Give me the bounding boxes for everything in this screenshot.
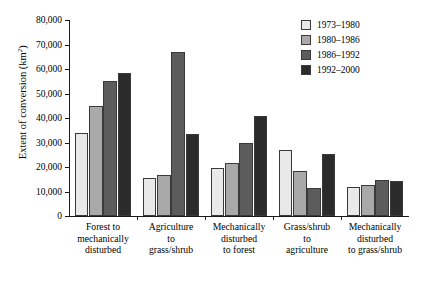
legend-label: 1980–1986 <box>317 35 360 45</box>
y-tick-label: 50,000 <box>36 89 62 99</box>
x-category-label: Mechanicallydisturbedto grass/shrub <box>335 221 415 256</box>
bar <box>361 185 374 216</box>
x-tick-mark <box>341 216 342 220</box>
y-tick-label: 30,000 <box>36 138 62 148</box>
bar <box>157 175 170 216</box>
bar <box>375 180 388 216</box>
x-tick-mark <box>273 216 274 220</box>
bar <box>171 52 184 216</box>
y-axis-title-suffix: ) <box>17 45 28 49</box>
legend-label: 1992–2000 <box>317 65 360 75</box>
legend-item[interactable]: 1992–2000 <box>301 62 419 77</box>
bar <box>293 171 306 216</box>
bar <box>390 181 403 216</box>
x-axis-line <box>69 216 409 217</box>
y-tick-label: 60,000 <box>36 64 62 74</box>
y-axis-title-superscript: 2 <box>16 49 24 53</box>
bar <box>103 81 116 216</box>
legend-item[interactable]: 1980–1986 <box>301 32 419 47</box>
y-tick-label: 0 <box>57 211 62 221</box>
bar <box>254 116 267 216</box>
legend-swatch <box>301 65 311 75</box>
legend-label: 1973–1980 <box>317 20 360 30</box>
y-tick-label: 20,000 <box>36 162 62 172</box>
legend-label: 1986–1992 <box>317 50 360 60</box>
legend-item[interactable]: 1986–1992 <box>301 47 419 62</box>
x-axis-category-labels: Forest tomechanicallydisturbedAgricultur… <box>69 221 409 279</box>
x-category-label-line: Mechanically <box>335 221 415 233</box>
bar <box>279 150 292 216</box>
y-tick-label: 10,000 <box>36 187 62 197</box>
bar <box>89 106 102 216</box>
bar <box>225 163 238 216</box>
bar <box>322 154 335 216</box>
bar <box>211 168 224 216</box>
x-category-label-line: disturbed <box>335 233 415 245</box>
y-axis-title: Extent of conversion (km2) <box>16 17 29 187</box>
bar-chart: Extent of conversion (km2) 010,00020,000… <box>0 0 425 283</box>
y-axis-title-text: Extent of conversion (km <box>17 52 28 159</box>
legend: 1973–19801980–19861986–19921992–2000 <box>301 17 419 77</box>
legend-swatch <box>301 35 311 45</box>
bar <box>118 73 131 216</box>
bar <box>307 188 320 216</box>
x-category-label-line: to grass/shrub <box>335 244 415 256</box>
legend-item[interactable]: 1973–1980 <box>301 17 419 32</box>
bar <box>186 134 199 216</box>
y-tick-label: 80,000 <box>36 15 62 25</box>
bar <box>239 143 252 217</box>
bar <box>347 187 360 216</box>
y-tick-label: 40,000 <box>36 113 62 123</box>
legend-swatch <box>301 50 311 60</box>
x-tick-mark <box>137 216 138 220</box>
bar <box>143 178 156 216</box>
x-tick-mark <box>205 216 206 220</box>
bar <box>75 133 88 216</box>
legend-swatch <box>301 20 311 30</box>
y-tick-label: 70,000 <box>36 40 62 50</box>
y-tick-mark <box>65 216 69 217</box>
